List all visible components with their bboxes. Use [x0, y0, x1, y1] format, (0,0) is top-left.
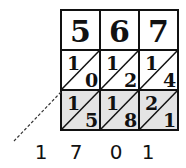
cell-tens-digit: 1 — [145, 52, 158, 74]
dashed-guide-line — [14, 92, 61, 141]
cell-ones-digit: 4 — [163, 69, 176, 91]
multiplicand-digit: 7 — [148, 14, 169, 49]
cell-tens-digit: 1 — [106, 92, 119, 114]
result-digit: 0 — [110, 140, 123, 164]
multiplicand-digit: 5 — [70, 14, 91, 49]
cell-tens-digit: 2 — [145, 92, 158, 114]
cell-ones-digit: 0 — [85, 69, 98, 91]
cell-ones-digit: 8 — [124, 109, 137, 131]
lattice-diagram: 5 6 7 1 0 1 2 1 4 1 5 1 8 2 1 1 7 0 1 — [0, 0, 186, 168]
cell-ones-digit: 2 — [124, 69, 137, 91]
cell-ones-digit: 1 — [163, 109, 176, 131]
result-digit: 7 — [70, 140, 83, 164]
result-digit: 1 — [35, 140, 48, 164]
cell-tens-digit: 1 — [67, 52, 80, 74]
cell-tens-digit: 1 — [106, 52, 119, 74]
cell-tens-digit: 1 — [67, 92, 80, 114]
cell-ones-digit: 5 — [85, 109, 98, 131]
result-digit: 1 — [142, 140, 155, 164]
multiplicand-digit: 6 — [109, 14, 130, 49]
